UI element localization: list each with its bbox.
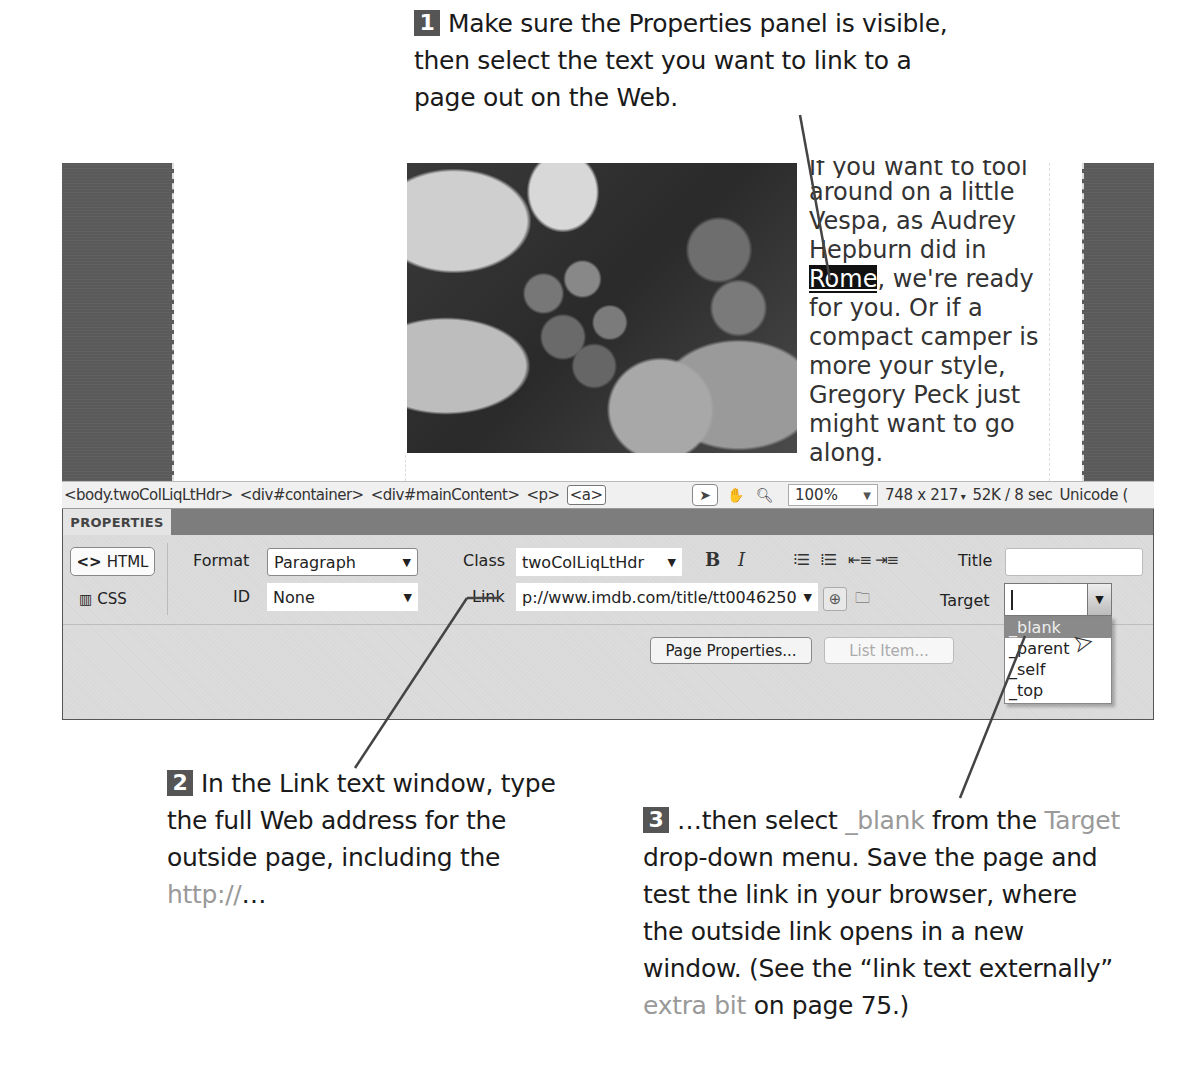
class-select[interactable]: twoColLiqLtHdr ▼ xyxy=(516,548,682,576)
download-time: 52K / 8 sec xyxy=(973,486,1053,504)
callout-highlight: extra bit xyxy=(643,991,746,1020)
page-paragraph[interactable]: If you want to tool around on a little V… xyxy=(809,160,1049,468)
italic-button[interactable]: I xyxy=(738,549,745,570)
chevron-down-icon: ▼ xyxy=(863,490,871,501)
callout-highlight: _blank xyxy=(845,806,924,835)
link-input[interactable]: p://www.imdb.com/title/tt0046250 ▼ xyxy=(516,583,818,611)
select-tool-icon[interactable]: ➤ xyxy=(692,484,718,506)
paragraph-text-before: around on a little Vespa, as Audrey Hepb… xyxy=(809,178,1016,264)
callout-text: from the xyxy=(924,806,1044,835)
encoding-label: Unicode ( xyxy=(1059,486,1128,504)
link-label: Link xyxy=(472,587,505,606)
step-number-badge: 3 xyxy=(643,807,669,833)
selected-link-text[interactable]: Rome xyxy=(809,265,877,293)
properties-panel-header: PROPERTIES xyxy=(62,509,1154,535)
class-label: Class xyxy=(463,551,505,570)
target-option-parent[interactable]: _parent xyxy=(1005,638,1111,659)
tag-body[interactable]: <body.twoColLiqLtHdr> xyxy=(64,486,233,504)
callout-step-3: 3…then select _blank from the Target dro… xyxy=(643,802,1123,1024)
target-option-blank[interactable]: _blank xyxy=(1005,617,1111,638)
callout-text: In the Link text window, type the full W… xyxy=(167,769,555,872)
code-brackets-icon: <> xyxy=(77,553,102,571)
callout-highlight: http:// xyxy=(167,880,242,909)
step-number-badge: 2 xyxy=(167,770,193,796)
callout-highlight: Target xyxy=(1044,806,1120,835)
tag-div-maincontent[interactable]: <div#mainContent> xyxy=(371,486,520,504)
outdent-icon[interactable]: ⇤≡ xyxy=(848,551,871,569)
page-properties-button[interactable]: Page Properties... xyxy=(650,637,812,664)
id-value: None xyxy=(273,588,315,607)
chevron-down-icon: ▼ xyxy=(403,556,411,569)
tag-a-selected[interactable]: <a> xyxy=(567,485,606,505)
target-combobox[interactable]: ▼ xyxy=(1004,583,1112,616)
layout-guide xyxy=(1049,163,1050,481)
ordered-list-icon[interactable]: ⁞☰ xyxy=(820,551,836,569)
indent-icon[interactable]: ⇥≡ xyxy=(875,551,898,569)
html-mode-button[interactable]: <> HTML xyxy=(70,547,155,576)
callout-step-1: 1Make sure the Properties panel is visib… xyxy=(414,5,954,116)
text-caret xyxy=(1011,590,1013,610)
properties-panel: <> HTML ▥ CSS Format Paragraph ▼ ID None… xyxy=(62,535,1154,720)
format-select[interactable]: Paragraph ▼ xyxy=(267,548,418,576)
tag-div-container[interactable]: <div#container> xyxy=(240,486,364,504)
unordered-list-icon[interactable]: ⁝☰ xyxy=(793,551,809,569)
zoom-level-select[interactable]: 100% ▼ xyxy=(788,484,878,506)
callout-text: drop-down menu. Save the page and test t… xyxy=(643,843,1113,983)
html-mode-label: HTML xyxy=(107,553,149,571)
tag-p[interactable]: <p> xyxy=(527,486,560,504)
divider xyxy=(167,543,168,615)
paragraph-text-after: , we're ready for you. Or if a compact c… xyxy=(809,265,1038,467)
bold-button[interactable]: B xyxy=(705,549,720,570)
class-value: twoColLiqLtHdr xyxy=(522,553,644,572)
clipped-line: If you want to tool xyxy=(809,160,1049,178)
callout-text: Make sure the Properties panel is visibl… xyxy=(414,9,947,112)
link-value: p://www.imdb.com/title/tt0046250 xyxy=(522,588,797,607)
css-mode-button[interactable]: ▥ CSS xyxy=(79,587,127,611)
point-to-file-icon[interactable]: ⊕ xyxy=(823,587,847,611)
divider xyxy=(63,624,1153,625)
left-sidebar-column xyxy=(62,163,174,481)
step-number-badge: 1 xyxy=(414,10,440,36)
title-input[interactable] xyxy=(1005,548,1143,576)
callout-step-2: 2In the Link text window, type the full … xyxy=(167,765,587,913)
callout-text: on page 75.) xyxy=(746,991,909,1020)
target-option-self[interactable]: _self xyxy=(1005,659,1111,680)
css-mode-label: CSS xyxy=(97,590,127,608)
chevron-down-icon: ▼ xyxy=(668,556,676,569)
id-label: ID xyxy=(233,587,250,606)
zoom-tool-icon[interactable]: 🔍︎ xyxy=(752,484,778,506)
chevron-down-icon[interactable]: ▼ xyxy=(1087,584,1111,615)
format-value: Paragraph xyxy=(274,553,356,572)
title-label: Title xyxy=(958,551,992,570)
chevron-down-icon: ▼ xyxy=(404,591,412,604)
right-sidebar-column xyxy=(1082,163,1154,481)
tag-selector-status-bar: <body.twoColLiqLtHdr> <div#container> <d… xyxy=(62,481,1154,509)
grapes-image[interactable] xyxy=(407,163,797,453)
list-item-button[interactable]: List Item... xyxy=(824,637,954,664)
window-size-select[interactable]: 748 x 217 ▾ xyxy=(885,486,966,504)
hand-tool-icon[interactable]: ✋ xyxy=(722,484,748,506)
layout-guide xyxy=(405,455,406,481)
properties-tab[interactable]: PROPERTIES xyxy=(63,509,171,535)
format-label: Format xyxy=(193,551,249,570)
browse-folder-icon[interactable]: 🗀 xyxy=(850,587,874,611)
css-grid-icon: ▥ xyxy=(79,591,92,607)
callout-text: … xyxy=(242,880,267,909)
zoom-level-value: 100% xyxy=(795,486,838,504)
callout-text: …then select xyxy=(677,806,845,835)
chevron-down-icon: ▼ xyxy=(804,591,812,604)
target-dropdown-list: _blank _parent _self _top xyxy=(1004,616,1112,704)
id-select[interactable]: None ▼ xyxy=(267,583,418,611)
target-label: Target xyxy=(940,591,990,610)
target-option-top[interactable]: _top xyxy=(1005,680,1111,701)
